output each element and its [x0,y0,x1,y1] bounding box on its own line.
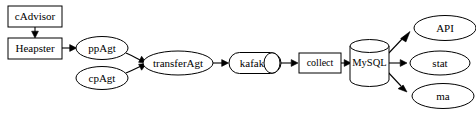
node-heapster-label: Heapster [15,42,54,54]
node-ma[interactable]: ma [412,84,474,109]
node-heapster[interactable]: Heapster [8,38,62,59]
edge-mysql-to-stat [388,60,407,67]
node-cpagt[interactable]: cpAgt [76,67,128,90]
node-api[interactable]: API [414,16,476,41]
arrowhead-icon [32,31,39,38]
arrowhead-icon [222,60,229,67]
edge-cadvisor-to-heapster [32,27,39,39]
arrowhead-icon [398,85,407,92]
arrowhead-icon [70,45,77,52]
arrowhead-icon [400,60,407,67]
node-stat-label: stat [432,57,447,69]
node-collect-label: collect [307,57,334,68]
edge-kafak-to-collect [281,60,298,67]
pipeline-flowchart: cAdvisor Heapster ppAgt cpAgt transferAg… [0,0,476,118]
node-cadvisor-label: cAdvisor [15,10,56,22]
node-cadvisor[interactable]: cAdvisor [8,6,62,27]
node-kafak-label: kafak [240,57,265,69]
edge-transferagt-to-kafak [213,60,229,67]
node-transferagt[interactable]: transferAgt [143,51,213,75]
edge-heapster-to-ppagt [62,45,77,52]
node-collect[interactable]: collect [299,53,341,73]
node-ma-label: ma [436,90,450,102]
node-stat[interactable]: stat [410,51,470,75]
node-kafak-cap [264,53,280,73]
node-api-label: API [436,22,454,34]
arrowhead-icon [401,32,410,42]
node-mysql-top [350,40,389,53]
diagram-canvas: cAdvisor Heapster ppAgt cpAgt transferAg… [0,0,476,118]
node-kafak[interactable]: kafak [229,53,281,74]
node-transferagt-label: transferAgt [153,57,203,69]
node-ppagt[interactable]: ppAgt [76,37,128,60]
arrowhead-icon [291,60,298,67]
edge-line [126,66,141,73]
node-cpagt-label: cpAgt [89,72,116,84]
node-mysql-label: MySQL [352,57,386,68]
edge-line [126,53,141,60]
node-ppagt-label: ppAgt [88,42,116,54]
node-layer: cAdvisor Heapster ppAgt cpAgt transferAg… [8,6,476,109]
node-mysql[interactable]: MySQL [350,40,389,87]
edge-mysql-to-api [386,32,410,57]
